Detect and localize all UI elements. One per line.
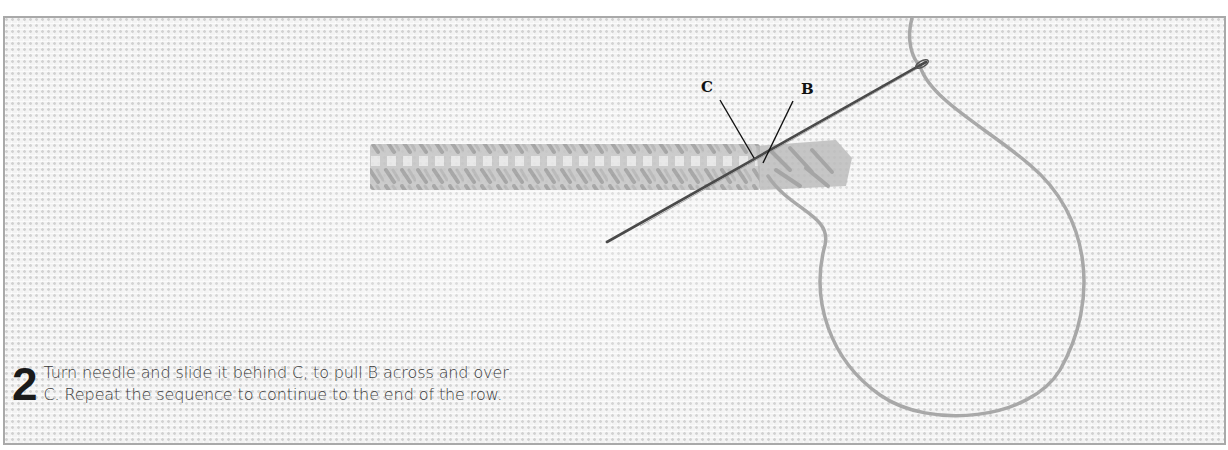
step-number: 2 xyxy=(12,364,37,404)
step-caption: 2 Turn needle and slide it behind C, to … xyxy=(12,362,512,406)
working-thread xyxy=(768,18,1084,416)
stitched-band xyxy=(370,140,852,190)
label-b: B xyxy=(801,80,814,98)
label-c: C xyxy=(701,78,713,96)
step-instruction-text: Turn needle and slide it behind C, to pu… xyxy=(43,363,508,404)
